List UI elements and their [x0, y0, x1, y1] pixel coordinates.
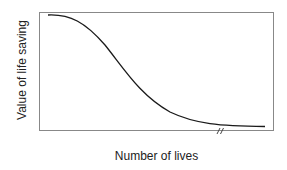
plot-frame: [40, 13, 274, 131]
y-axis-label: Value of life saving: [15, 10, 29, 130]
chart-canvas: [0, 0, 287, 170]
x-axis-label: Number of lives: [0, 149, 287, 163]
value-curve: [48, 15, 265, 127]
